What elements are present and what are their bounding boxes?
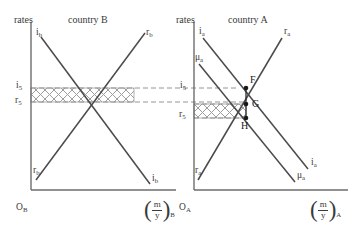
point-G-marker	[244, 102, 249, 107]
panel-a-curve-label-mu-a-bottom: μa	[297, 171, 305, 182]
panel-a-curve-label-r-a-bottom: ra	[195, 166, 201, 177]
point-label-H: H	[241, 121, 248, 131]
panel-a-x-axis-label: ( m y ) A	[310, 200, 341, 220]
panel-b-tick-i5: i5	[16, 81, 22, 92]
panel-b-curve-label-i-b-top: ib	[36, 28, 42, 39]
panel-a-tick-r5: r5	[179, 110, 186, 121]
panel-b-curve-label-i-b-bottom: ib	[152, 174, 158, 185]
panel-b-title: country B	[68, 15, 108, 25]
curve-r-b	[36, 33, 145, 180]
diagram-canvas	[0, 0, 353, 246]
panel-b-tick-r5: r5	[15, 96, 22, 107]
panel-a-title: country A	[228, 15, 268, 25]
paren-open-a: (	[310, 201, 318, 220]
point-F-marker	[244, 86, 249, 91]
panel-a-curve-label-mu-a-top: μa	[195, 53, 203, 64]
panel-a-curve-label-i-a-bottom: ia	[311, 158, 317, 169]
economics-diagram: rates country B i5 r5 ib rb ib rb OB ( m…	[0, 0, 353, 246]
panel-b-rates-label: rates	[14, 15, 33, 25]
panel-b-x-axis-label: ( m y ) B	[144, 200, 175, 220]
panel-a-origin: OA	[179, 203, 191, 214]
point-label-F: F	[250, 75, 256, 85]
point-label-G: G	[252, 99, 259, 109]
panel-a-tick-i5: i5	[180, 81, 186, 92]
panel-a-group	[194, 22, 348, 190]
panel-a-rates-label: rates	[176, 15, 195, 25]
panel-a-curve-label-r-a-top: ra	[284, 27, 290, 38]
paren-close-a: )	[329, 201, 337, 220]
paren-open-b: (	[144, 201, 152, 220]
curve-i-b	[41, 37, 150, 184]
panel-b-curve-label-r-b-bottom: rb	[33, 166, 40, 177]
panel-b-hatched-band	[31, 88, 134, 102]
panel-a-curve-label-i-a-top: ia	[199, 27, 205, 38]
paren-close-b: )	[163, 201, 171, 220]
panel-b-origin: OB	[16, 203, 27, 214]
panel-b-curve-label-r-b-top: rb	[146, 28, 153, 39]
